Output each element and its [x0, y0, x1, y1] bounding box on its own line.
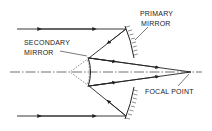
- secondary-mirror-label-2: MIRROR: [24, 49, 54, 56]
- focal-point-label: FOCAL POINT: [145, 88, 194, 95]
- leader-lines: [60, 27, 189, 86]
- primary-mirror-label-1: PRIMARY: [140, 10, 173, 17]
- primary-mirror: [125, 26, 138, 119]
- primary-mirror-label-2: MIRROR: [141, 20, 171, 27]
- secondary-mirror-label-1: SECONDARY: [24, 39, 70, 46]
- cassegrain-diagram: PRIMARY MIRROR SECONDARY MIRROR FOCAL PO…: [0, 0, 212, 131]
- reflected-rays: [89, 29, 126, 116]
